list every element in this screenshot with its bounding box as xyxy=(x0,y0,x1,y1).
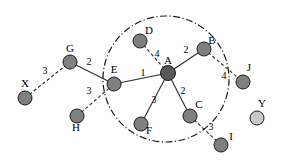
edge-weight-a-c: 2 xyxy=(181,85,186,96)
node-label-e: E xyxy=(111,63,118,75)
edge-weight-g-e: 2 xyxy=(87,56,92,67)
node-x[interactable] xyxy=(18,91,32,105)
node-e[interactable] xyxy=(107,77,121,91)
node-label-d: D xyxy=(145,24,153,36)
node-g[interactable] xyxy=(63,55,77,69)
node-label-c: C xyxy=(195,98,202,110)
node-y[interactable] xyxy=(250,111,264,125)
node-a[interactable] xyxy=(161,66,176,81)
edge-weight-d-a: 4 xyxy=(155,48,160,59)
graph-figure: 1223243343 ABCDEFGHIJXY xyxy=(0,0,282,166)
node-label-y: Y xyxy=(258,97,266,109)
node-c[interactable] xyxy=(183,109,197,123)
node-label-g: G xyxy=(66,42,74,54)
graph-canvas: 1223243343 ABCDEFGHIJXY xyxy=(0,0,282,166)
node-d[interactable] xyxy=(133,34,147,48)
node-i[interactable] xyxy=(214,138,228,152)
edge-x-g xyxy=(25,62,70,98)
node-label-h: H xyxy=(72,121,80,133)
node-j[interactable] xyxy=(236,75,250,89)
edge-weight-b-j: 4 xyxy=(222,70,227,81)
node-label-j: J xyxy=(247,61,252,73)
node-label-x: X xyxy=(21,77,29,89)
edge-weight-x-g: 3 xyxy=(43,65,48,76)
edge-weight-h-e: 3 xyxy=(87,85,92,96)
edge-weight-c-i: 3 xyxy=(209,121,214,132)
node-label-f: F xyxy=(146,124,152,136)
edge-weight-a-b: 2 xyxy=(184,44,189,55)
edge-weight-e-a: 1 xyxy=(141,67,146,78)
node-label-i: I xyxy=(229,130,233,142)
node-label-b: B xyxy=(208,34,215,46)
node-label-a: A xyxy=(164,54,172,66)
edge-weight-a-f: 3 xyxy=(152,94,157,105)
